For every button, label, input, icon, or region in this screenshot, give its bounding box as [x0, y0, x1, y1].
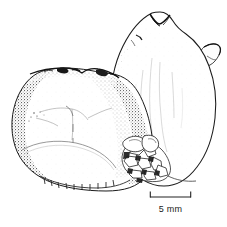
specimen-illustration: [0, 0, 227, 227]
figure-root: 5 mm: [0, 0, 227, 227]
